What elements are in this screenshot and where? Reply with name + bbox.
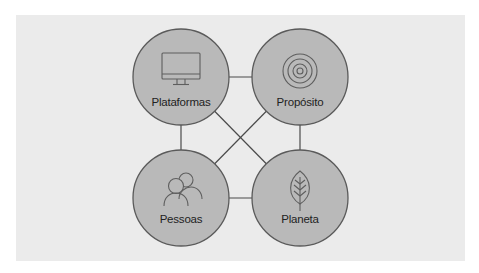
node-pessoas <box>133 150 229 246</box>
node-proposito <box>252 29 348 125</box>
node-plataformas <box>133 29 229 125</box>
node-label-proposito: Propósito <box>252 96 348 108</box>
node-label-plataformas: Plataformas <box>133 96 229 108</box>
node-label-planeta: Planeta <box>252 213 348 225</box>
network-diagram <box>0 0 479 273</box>
node-label-pessoas: Pessoas <box>133 213 229 225</box>
